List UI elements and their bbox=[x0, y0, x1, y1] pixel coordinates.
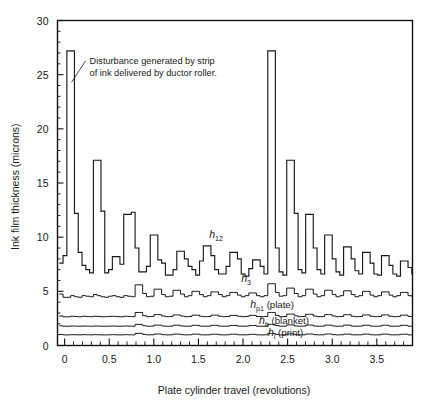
ink-film-thickness-chart: Ink film thickness (microns) Plate cylin… bbox=[0, 0, 431, 404]
y-tick-label: 0 bbox=[43, 340, 49, 352]
y-tick-label: 5 bbox=[43, 285, 49, 297]
x-tick-label: 1.0 bbox=[147, 353, 162, 365]
x-tick-label: 2.0 bbox=[236, 353, 251, 365]
disturbance-note-line2: of ink delivered by ductor roller. bbox=[90, 68, 217, 78]
y-tick-label: 15 bbox=[37, 177, 49, 189]
x-tick-label: 3.0 bbox=[325, 353, 340, 365]
x-tick-label: 0.5 bbox=[102, 353, 117, 365]
y-axis-title: Ink film thickness (microns) bbox=[9, 123, 21, 250]
x-tick-label: 2.5 bbox=[280, 353, 295, 365]
y-tick-label: 20 bbox=[37, 123, 49, 135]
x-tick-label: 3.5 bbox=[370, 353, 385, 365]
x-axis-title-text: Plate cylinder travel (revolutions) bbox=[158, 384, 310, 396]
chart-canvas: Ink film thickness (microns) Plate cylin… bbox=[0, 0, 431, 404]
y-tick-label: 10 bbox=[37, 231, 49, 243]
y-tick-label: 25 bbox=[37, 69, 49, 81]
y-tick-label: 30 bbox=[37, 15, 49, 27]
x-axis-title: Plate cylinder travel (revolutions) bbox=[158, 384, 310, 396]
x-tick-label: 1.5 bbox=[191, 353, 206, 365]
disturbance-note-line1: Disturbance generated by strip bbox=[90, 56, 215, 66]
y-axis-title-text: Ink film thickness (microns) bbox=[9, 123, 21, 250]
x-tick-label: 0 bbox=[62, 353, 68, 365]
